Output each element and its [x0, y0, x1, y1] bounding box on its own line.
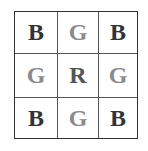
cell-r2-c0: B	[15, 98, 58, 138]
cell-r0-c1: G	[58, 12, 99, 54]
cell-r0-c2: B	[99, 12, 137, 54]
cell-r1-c0: G	[15, 54, 58, 98]
cell-r2-c2: B	[99, 98, 137, 138]
cell-r1-c1: R	[58, 54, 99, 98]
cell-r0-c0: B	[15, 12, 58, 54]
cell-r2-c1: G	[58, 98, 99, 138]
color-filter-grid: B G B G R G B G B	[14, 11, 138, 139]
cell-r1-c2: G	[99, 54, 137, 98]
